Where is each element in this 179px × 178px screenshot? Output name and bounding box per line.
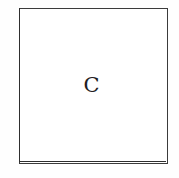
outlined-square: C xyxy=(19,8,168,164)
box-label-text: C xyxy=(83,75,99,96)
box-label: C xyxy=(20,9,167,163)
figure-canvas: C xyxy=(0,0,179,178)
